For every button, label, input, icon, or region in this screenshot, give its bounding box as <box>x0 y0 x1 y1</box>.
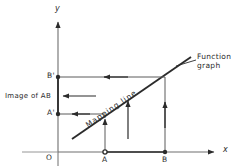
point-b-prime-label: B' <box>47 71 55 80</box>
point-a-prime-label: A' <box>47 108 55 117</box>
origin-label: O <box>46 153 52 162</box>
point-a-prime-dot <box>56 112 60 116</box>
x-axis-label: x <box>223 145 228 154</box>
function-graph-label: Function graph <box>197 52 231 70</box>
point-a-label: A <box>102 155 107 164</box>
math-diagram-figure: y x O A B A' B' Image of AB Mapping line… <box>0 0 238 168</box>
point-b-prime-dot <box>56 75 60 79</box>
image-of-ab-label: Image of AB <box>5 92 51 100</box>
point-b-dot <box>163 150 167 154</box>
y-axis-label: y <box>55 4 60 13</box>
diagram-canvas <box>0 0 238 168</box>
point-a-dot <box>103 150 107 154</box>
point-b-label: B <box>162 155 167 164</box>
